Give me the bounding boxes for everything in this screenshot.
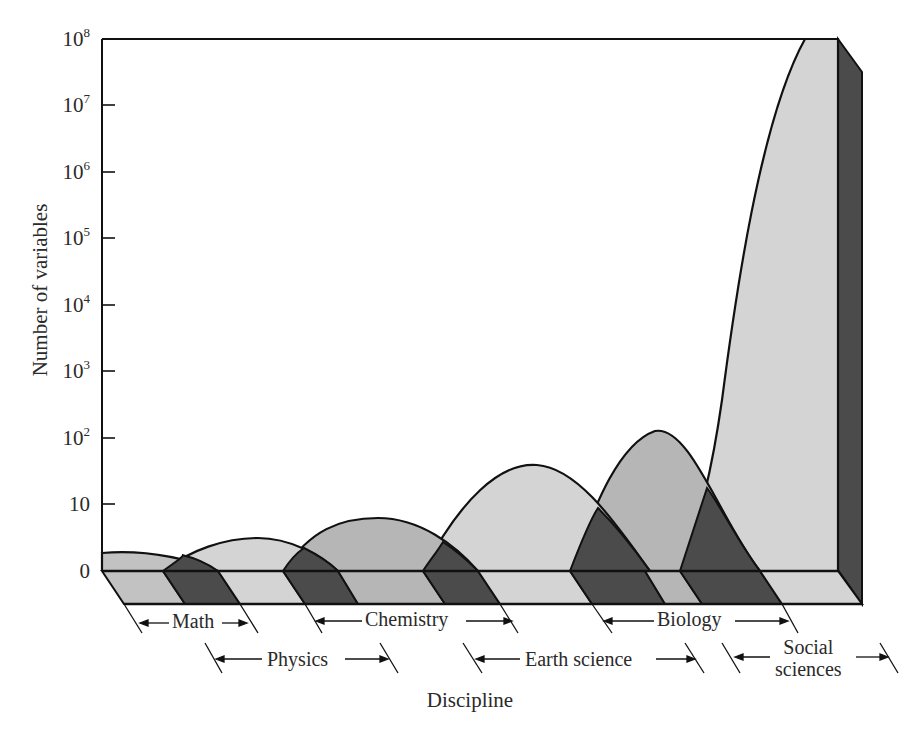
category-label-earth-science: Earth science xyxy=(522,649,635,669)
humps xyxy=(102,39,838,571)
category-label-biology: Biology xyxy=(654,609,724,629)
y-tick-1e2: 102 xyxy=(30,428,90,449)
figure: 108 107 106 105 104 103 102 10 0 Number … xyxy=(0,0,924,729)
category-label-physics: Physics xyxy=(264,649,331,669)
side-panel xyxy=(838,39,862,604)
x-axis-label: Discipline xyxy=(427,688,513,713)
y-axis-label: Number of variables xyxy=(28,204,53,377)
social-line-1: Social xyxy=(783,636,833,658)
y-tick-1e6: 106 xyxy=(30,162,90,183)
y-tick-1e7: 107 xyxy=(30,95,90,116)
category-label-math: Math xyxy=(169,611,217,631)
social-line-2: sciences xyxy=(775,658,842,680)
y-tick-0: 0 xyxy=(30,561,90,582)
base-strip xyxy=(102,571,862,604)
y-tick-10: 10 xyxy=(30,494,90,515)
chart-canvas xyxy=(0,0,924,729)
category-label-social-sciences: Social sciences xyxy=(772,636,845,680)
y-tick-1e8: 108 xyxy=(30,29,90,50)
category-label-chemistry: Chemistry xyxy=(362,609,451,629)
